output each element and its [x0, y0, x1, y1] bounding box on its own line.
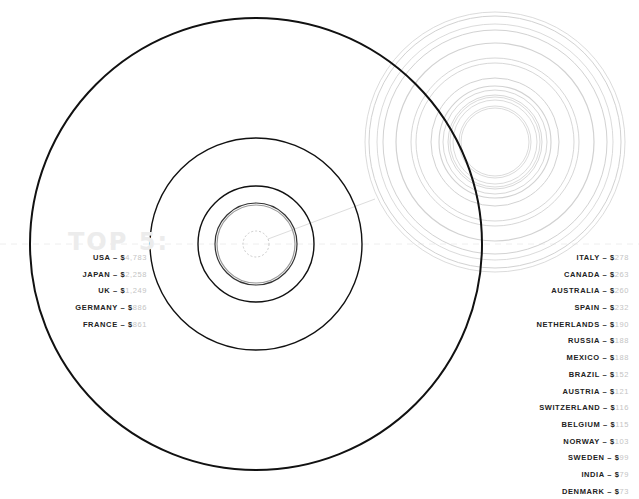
- top5-list: USA – $4,783 JAPAN – $2,258 UK – $1,249 …: [0, 250, 147, 333]
- others-list: ITALY – $278 CANADA – $263 AUSTRALIA – $…: [449, 250, 629, 499]
- list-item: JAPAN – $2,258: [0, 267, 147, 284]
- list-item: MEXICO – $188: [449, 350, 629, 367]
- list-item: SWITZERLAND – $116: [449, 400, 629, 417]
- list-item: SPAIN – $232: [449, 300, 629, 317]
- list-item: NORWAY – $103: [449, 434, 629, 451]
- others-rings: [365, 12, 625, 272]
- list-item: BRAZIL – $152: [449, 367, 629, 384]
- list-item: SWEDEN – $99: [449, 450, 629, 467]
- list-item: AUSTRALIA – $260: [449, 283, 629, 300]
- list-item: NETHERLANDS – $190: [449, 317, 629, 334]
- list-item: BELGIUM – $115: [449, 417, 629, 434]
- list-item: INDIA – $79: [449, 467, 629, 484]
- list-item: CANADA – $263: [449, 267, 629, 284]
- list-item: DENMARK – $73: [449, 484, 629, 499]
- list-item: GERMANY – $886: [0, 300, 147, 317]
- list-item: RUSSIA – $188: [449, 333, 629, 350]
- list-item: ITALY – $278: [449, 250, 629, 267]
- list-item: AUSTRIA – $121: [449, 384, 629, 401]
- list-item: UK – $1,249: [0, 283, 147, 300]
- list-item: FRANCE – $861: [0, 317, 147, 334]
- list-item: USA – $4,783: [0, 250, 147, 267]
